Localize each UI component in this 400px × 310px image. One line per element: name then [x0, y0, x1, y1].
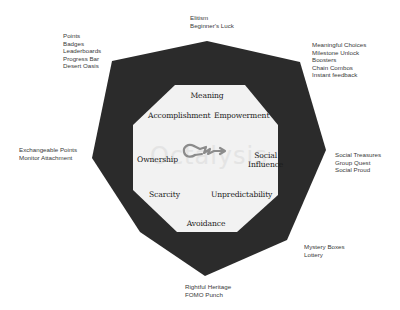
techniques-left: Exchangeable Points Monitor Attachment: [19, 146, 77, 161]
technique-item: Monitor Attachment: [19, 154, 77, 162]
technique-item: Boosters: [312, 56, 366, 64]
drive-empowerment: Empowerment: [214, 111, 269, 120]
techniques-top: Elitism Beginner's Luck: [190, 14, 234, 29]
drive-accomplishment: Accomplishment: [148, 111, 211, 120]
technique-item: Desert Oasis: [63, 62, 101, 70]
technique-item: Mystery Boxes: [304, 243, 345, 251]
technique-item: Rightful Heritage: [185, 283, 231, 291]
technique-item: Social Treasures: [335, 151, 381, 159]
techniques-top-right: Meaningful Choices Milestone Unlock Boos…: [312, 41, 366, 79]
technique-item: FOMO Punch: [185, 291, 231, 299]
technique-item: Instant feedback: [312, 71, 366, 79]
technique-item: Social Proud: [335, 166, 381, 174]
techniques-bottom-right: Mystery Boxes Lottery: [304, 243, 345, 258]
drive-ownership: Ownership: [137, 155, 178, 164]
technique-item: Meaningful Choices: [312, 41, 366, 49]
drive-social-influence: Social Influence: [248, 151, 283, 169]
key-icon: [180, 140, 240, 164]
technique-item: Lottery: [304, 251, 345, 259]
octalysis-diagram: Octalysis Meaning Accomplishment Empower…: [0, 0, 400, 310]
technique-item: Milestone Unlock: [312, 49, 366, 57]
drive-social-line2: Influence: [248, 160, 283, 169]
techniques-bottom: Rightful Heritage FOMO Punch: [185, 283, 231, 298]
techniques-top-left: Points Badges Leaderboards Progress Bar …: [63, 32, 101, 70]
technique-item: Exchangeable Points: [19, 146, 77, 154]
technique-item: Progress Bar: [63, 55, 101, 63]
drive-social-line1: Social: [248, 151, 283, 160]
drive-unpredictability: Unpredictability: [211, 190, 272, 199]
technique-item: Chain Combos: [312, 64, 366, 72]
technique-item: Elitism: [190, 14, 234, 22]
technique-item: Leaderboards: [63, 47, 101, 55]
drive-scarcity: Scarcity: [149, 190, 180, 199]
technique-item: Points: [63, 32, 101, 40]
techniques-right: Social Treasures Group Quest Social Prou…: [335, 151, 381, 174]
technique-item: Group Quest: [335, 159, 381, 167]
technique-item: Badges: [63, 40, 101, 48]
drive-avoidance: Avoidance: [187, 219, 226, 228]
technique-item: Beginner's Luck: [190, 22, 234, 30]
drive-meaning: Meaning: [190, 91, 223, 100]
